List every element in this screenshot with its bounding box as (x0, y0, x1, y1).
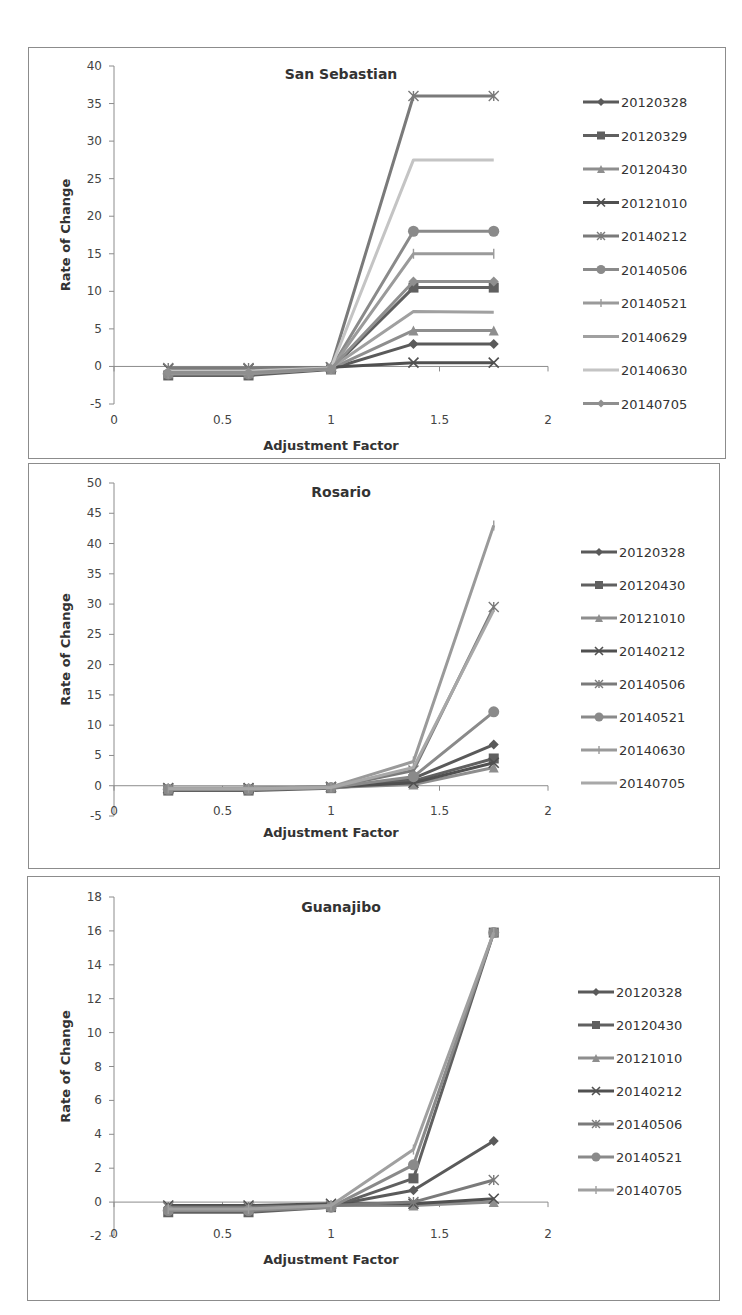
circle-marker-icon (488, 226, 499, 237)
legend-label: 20140506 (621, 263, 687, 278)
square-marker-icon (595, 581, 603, 589)
x-tick-label: 2 (544, 1227, 552, 1241)
legend-label: 20120329 (621, 129, 687, 144)
y-tick-label: 12 (87, 992, 102, 1006)
x-tick-label: 0 (110, 413, 118, 427)
legend-label: 20140705 (621, 397, 687, 412)
chart-title: Guanajibo (301, 899, 381, 915)
y-axis-label: Rate of Change (58, 593, 73, 706)
y-axis-label: Rate of Change (58, 179, 73, 292)
legend-label: 20140521 (619, 710, 685, 725)
square-marker-icon (408, 1173, 418, 1183)
y-tick-label: 50 (87, 476, 102, 490)
x-axis-label: Adjustment Factor (263, 1252, 399, 1267)
chart-frame (29, 464, 720, 869)
x-tick-label: 1.5 (430, 413, 449, 427)
circle-marker-icon (597, 265, 606, 274)
y-tick-label: 16 (87, 924, 102, 938)
x-tick-label: 1 (327, 1227, 335, 1241)
y-tick-label: -5 (90, 397, 102, 411)
legend-label: 20120430 (621, 162, 687, 177)
x-axis-label: Adjustment Factor (263, 825, 399, 840)
x-tick-label: 0 (110, 804, 118, 818)
y-tick-label: 0 (94, 779, 102, 793)
y-tick-label: 0 (94, 359, 102, 373)
legend-label: 20140705 (616, 1183, 682, 1198)
legend-label: 20140506 (619, 677, 685, 692)
chart-title: San Sebastian (285, 66, 398, 82)
circle-marker-icon (592, 1153, 601, 1162)
legend-label: 20140212 (621, 229, 687, 244)
legend-label: 20140630 (619, 743, 685, 758)
legend-label: 20120328 (621, 95, 687, 110)
legend-label: 20120328 (616, 985, 682, 1000)
x-tick-label: 1 (327, 804, 335, 818)
legend-label: 20140521 (616, 1150, 682, 1165)
circle-marker-icon (408, 226, 419, 237)
y-tick-label: 2 (94, 1161, 102, 1175)
circle-marker-icon (408, 1159, 419, 1170)
y-tick-label: 4 (94, 1127, 102, 1141)
x-tick-label: 1.5 (430, 804, 449, 818)
square-marker-icon (597, 132, 605, 140)
y-tick-label: 20 (87, 658, 102, 672)
y-tick-label: 5 (94, 748, 102, 762)
legend-label: 20140521 (621, 296, 687, 311)
y-tick-label: 0 (94, 1195, 102, 1209)
x-tick-label: 2 (544, 804, 552, 818)
y-tick-label: 10 (87, 284, 102, 298)
x-tick-label: 0.5 (213, 1227, 232, 1241)
circle-marker-icon (595, 713, 604, 722)
legend-label: 20140212 (619, 644, 685, 659)
y-tick-label: 10 (87, 1026, 102, 1040)
y-tick-label: -5 (90, 809, 102, 823)
square-marker-icon (592, 1021, 600, 1029)
y-tick-label: 6 (94, 1093, 102, 1107)
legend-label: 20121010 (621, 196, 687, 211)
y-tick-label: 15 (87, 688, 102, 702)
circle-marker-icon (488, 706, 499, 717)
charts-svg: -5051015202530354000.511.52San Sebastian… (0, 0, 742, 1315)
chart-title: Rosario (311, 484, 371, 500)
y-tick-label: 20 (87, 209, 102, 223)
y-tick-label: 25 (87, 172, 102, 186)
y-tick-label: 15 (87, 247, 102, 261)
legend-label: 20140212 (616, 1084, 682, 1099)
legend-label: 20140506 (616, 1117, 682, 1132)
y-tick-label: -2 (90, 1229, 102, 1243)
legend-label: 20120430 (616, 1018, 682, 1033)
y-tick-label: 45 (87, 506, 102, 520)
legend-label: 20120328 (619, 545, 685, 560)
legend-label: 20120430 (619, 578, 685, 593)
x-tick-label: 1 (327, 413, 335, 427)
x-tick-label: 1.5 (430, 1227, 449, 1241)
x-tick-label: 2 (544, 413, 552, 427)
legend-label: 20140629 (621, 330, 687, 345)
y-tick-label: 30 (87, 134, 102, 148)
y-tick-label: 25 (87, 627, 102, 641)
legend-label: 20121010 (616, 1051, 682, 1066)
y-tick-label: 10 (87, 718, 102, 732)
x-tick-label: 0.5 (213, 413, 232, 427)
y-tick-label: 5 (94, 322, 102, 336)
x-tick-label: 0 (110, 1227, 118, 1241)
legend-label: 20121010 (619, 611, 685, 626)
y-tick-label: 35 (87, 97, 102, 111)
y-tick-label: 30 (87, 597, 102, 611)
y-tick-label: 35 (87, 567, 102, 581)
y-tick-label: 14 (87, 958, 102, 972)
y-axis-label: Rate of Change (58, 1010, 73, 1123)
y-tick-label: 18 (87, 890, 102, 904)
legend-label: 20140630 (621, 363, 687, 378)
y-tick-label: 40 (87, 59, 102, 73)
y-tick-label: 40 (87, 537, 102, 551)
legend-label: 20140705 (619, 776, 685, 791)
x-axis-label: Adjustment Factor (263, 438, 399, 453)
x-tick-label: 0.5 (213, 804, 232, 818)
y-tick-label: 8 (94, 1060, 102, 1074)
circle-marker-icon (408, 771, 419, 782)
